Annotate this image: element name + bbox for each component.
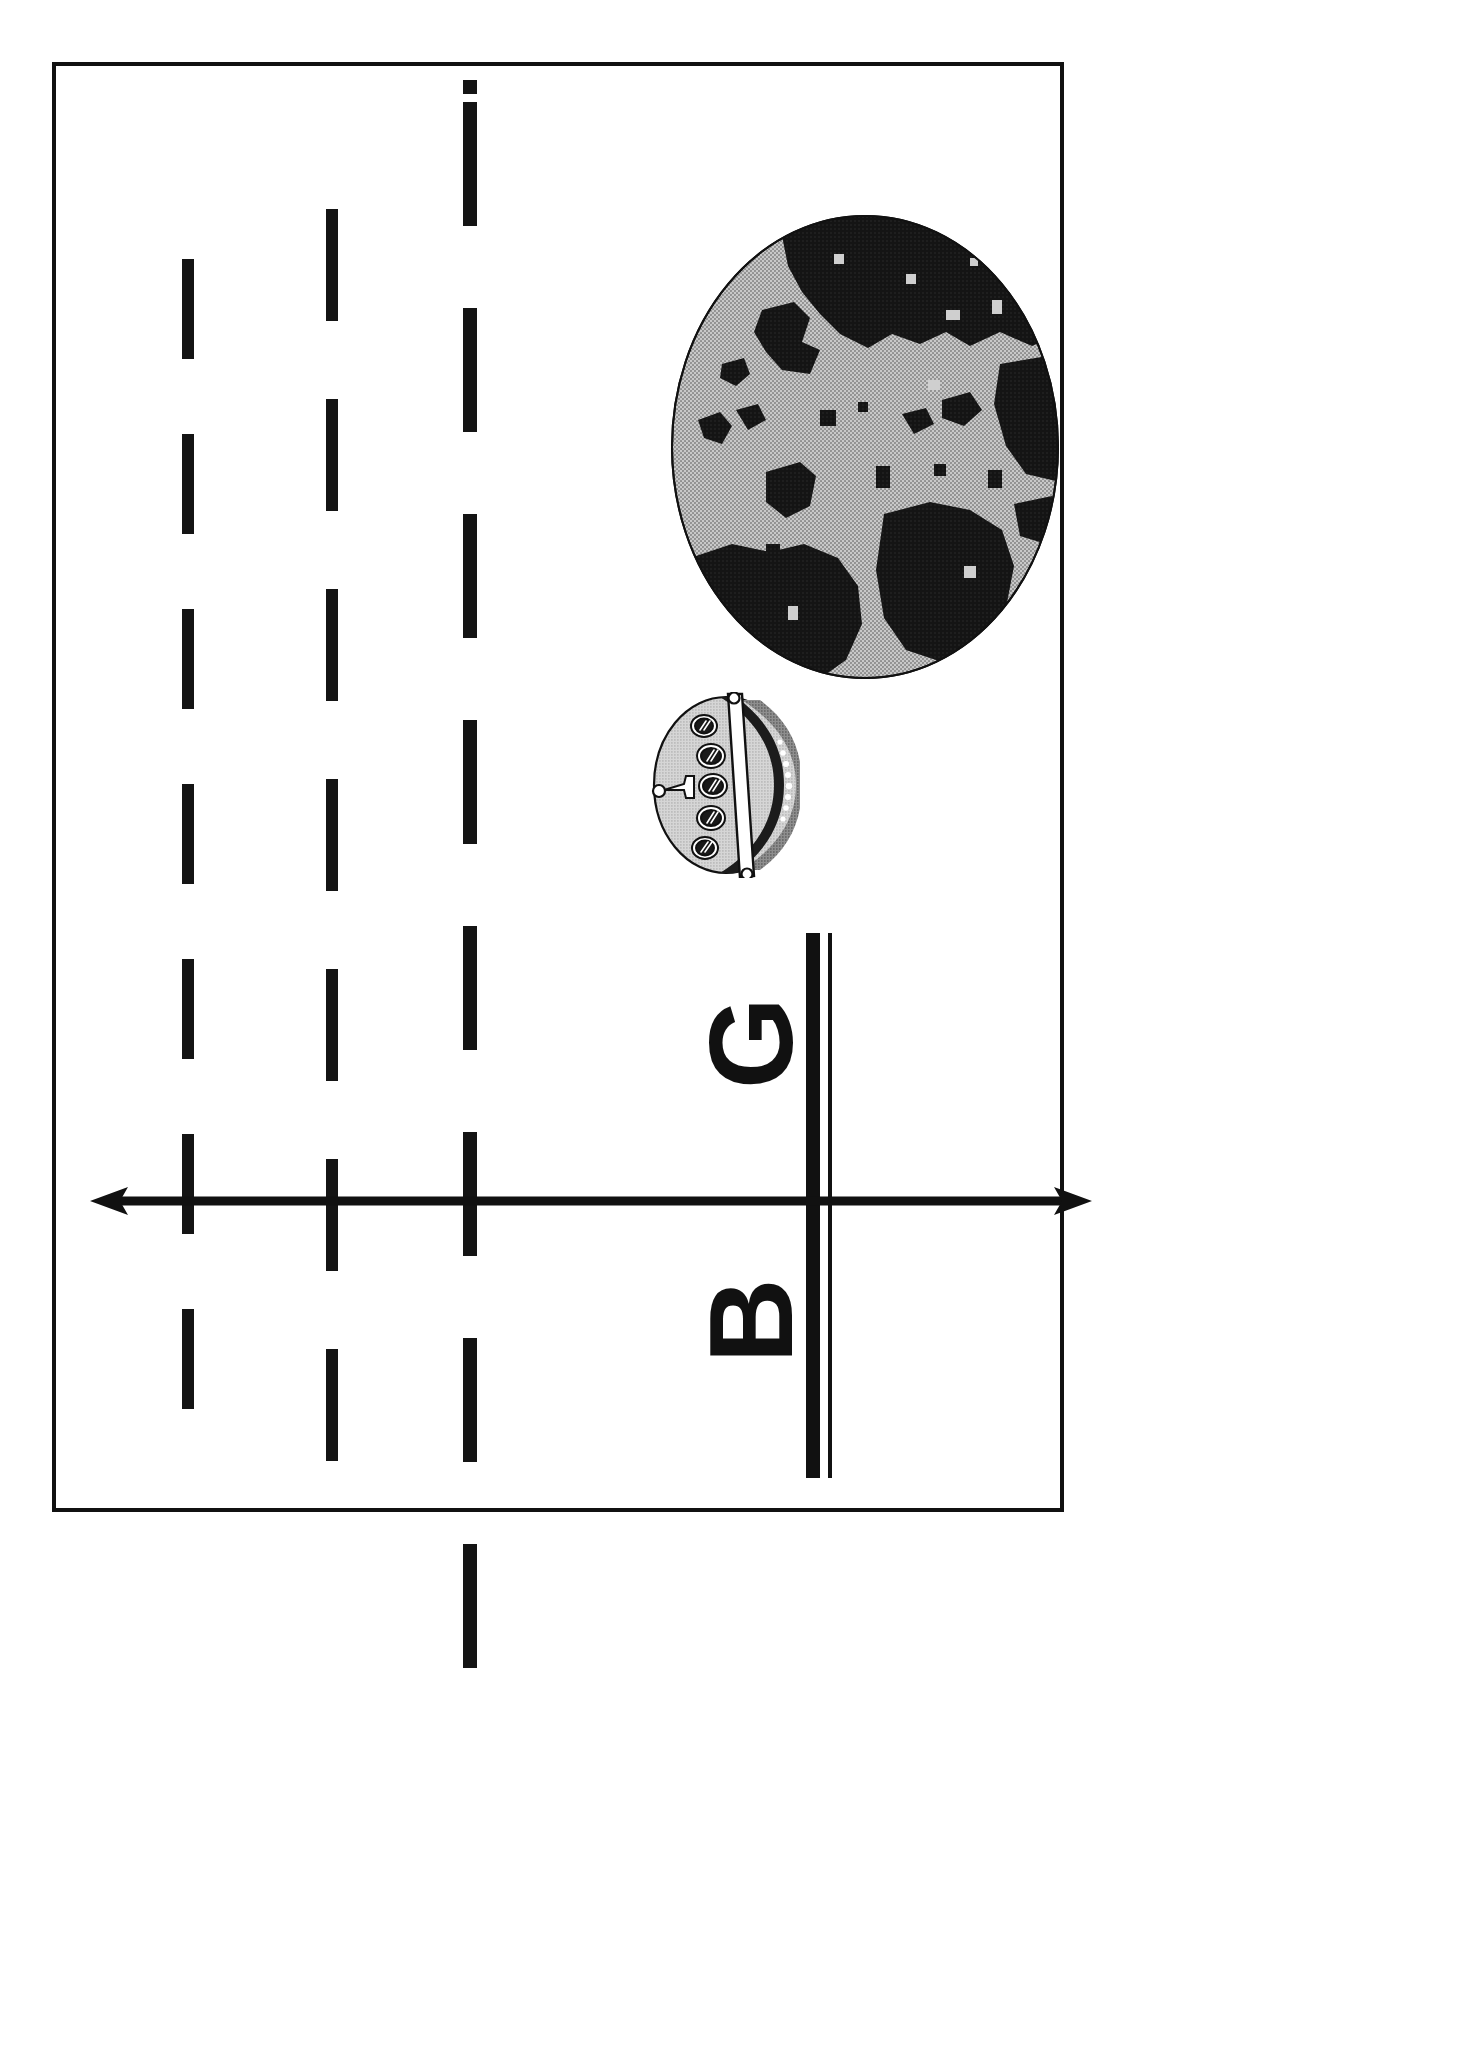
horizontal-double-arrow — [86, 1181, 1096, 1221]
dash-segment — [463, 514, 477, 638]
dash-segment — [326, 589, 338, 701]
ship — [648, 692, 800, 878]
dash-segment — [182, 1309, 194, 1409]
scan-page-border: G B — [52, 62, 1064, 1512]
dash-segment — [326, 209, 338, 321]
dashed-line-outer — [182, 66, 194, 1508]
coordinate-axis: G B — [656, 911, 1116, 1481]
dash-segment — [182, 259, 194, 359]
dash-segment — [326, 969, 338, 1081]
dash-segment — [463, 308, 477, 432]
page-canvas: G B — [0, 0, 1470, 2066]
globe — [670, 214, 1060, 680]
dash-segment — [182, 784, 194, 884]
dash-segment — [326, 779, 338, 891]
axis-label-g: G — [691, 983, 811, 1103]
dash-segment — [463, 926, 477, 1050]
dash-segment — [326, 1349, 338, 1461]
axis-label-b: B — [691, 1261, 811, 1381]
dash-segment — [182, 434, 194, 534]
dash-segment — [326, 399, 338, 511]
dash-segment — [463, 102, 477, 226]
dashed-line-inner — [463, 66, 477, 1508]
dashed-line-middle — [326, 66, 338, 1508]
dash-segment — [182, 959, 194, 1059]
dash-segment — [182, 609, 194, 709]
dashed-line-top-square — [463, 80, 477, 94]
dash-segment — [463, 1338, 477, 1462]
dash-segment — [463, 1544, 477, 1668]
dash-segment — [463, 720, 477, 844]
